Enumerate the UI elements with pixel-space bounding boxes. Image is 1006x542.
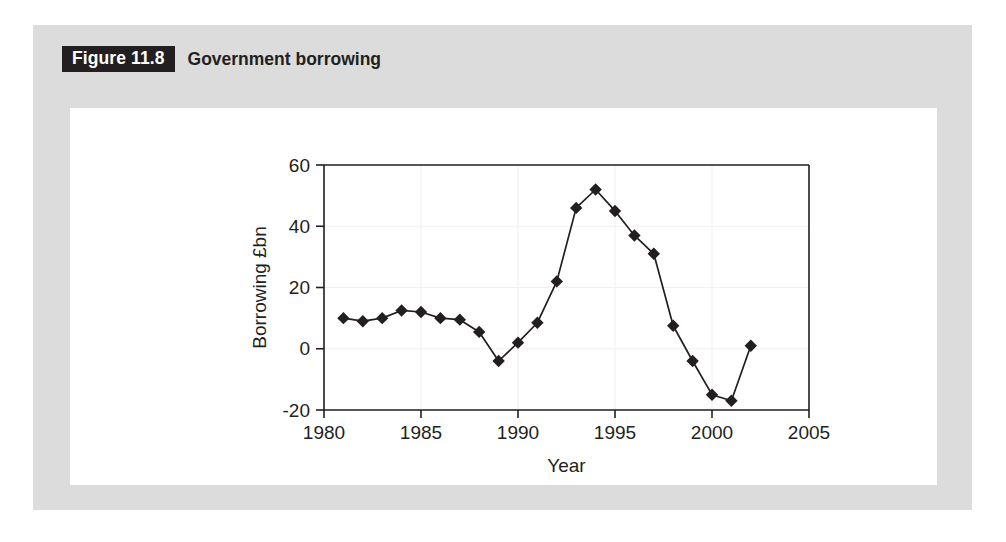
series-line-borrowing — [343, 190, 750, 401]
y-tick-label: 60 — [289, 155, 310, 176]
data-point-marker — [473, 326, 485, 338]
data-point-marker — [551, 275, 563, 287]
figure-root: Figure 11.8 Government borrowing -200204… — [0, 0, 1006, 542]
data-point-marker — [376, 312, 388, 324]
data-point-marker — [357, 315, 369, 327]
x-tick-label: 2005 — [788, 422, 830, 443]
data-point-marker — [454, 313, 466, 325]
data-series — [343, 190, 750, 401]
data-point-marker — [337, 312, 349, 324]
data-markers — [337, 183, 757, 407]
line-chart: -200204060198019851990199520002005 YearB… — [70, 108, 937, 485]
x-tick-label: 2000 — [691, 422, 733, 443]
data-point-marker — [706, 388, 718, 400]
data-point-marker — [395, 304, 407, 316]
chart-card: -200204060198019851990199520002005 YearB… — [70, 108, 937, 485]
data-point-marker — [667, 320, 679, 332]
chart-svg: -200204060198019851990199520002005 YearB… — [70, 108, 937, 485]
figure-panel: Figure 11.8 Government borrowing -200204… — [33, 25, 972, 510]
axis-tick-labels: -200204060198019851990199520002005 — [283, 155, 831, 444]
gridlines — [324, 165, 809, 410]
data-point-marker — [415, 306, 427, 318]
data-point-marker — [725, 395, 737, 407]
x-tick-label: 1980 — [303, 422, 345, 443]
figure-header: Figure 11.8 Government borrowing — [62, 44, 381, 74]
axis-ticks — [316, 165, 809, 418]
x-axis-title: Year — [547, 455, 586, 476]
x-tick-label: 1985 — [400, 422, 442, 443]
figure-caption: Government borrowing — [188, 49, 381, 70]
data-point-marker — [434, 312, 446, 324]
figure-number-tag: Figure 11.8 — [62, 46, 175, 73]
y-tick-label: 0 — [299, 338, 310, 359]
data-point-marker — [745, 339, 757, 351]
y-tick-label: -20 — [283, 400, 310, 421]
y-axis-title: Borrowing £bn — [249, 226, 270, 349]
y-tick-label: 40 — [289, 216, 310, 237]
x-tick-label: 1995 — [594, 422, 636, 443]
data-point-marker — [686, 355, 698, 367]
x-tick-label: 1990 — [497, 422, 539, 443]
y-tick-label: 20 — [289, 277, 310, 298]
